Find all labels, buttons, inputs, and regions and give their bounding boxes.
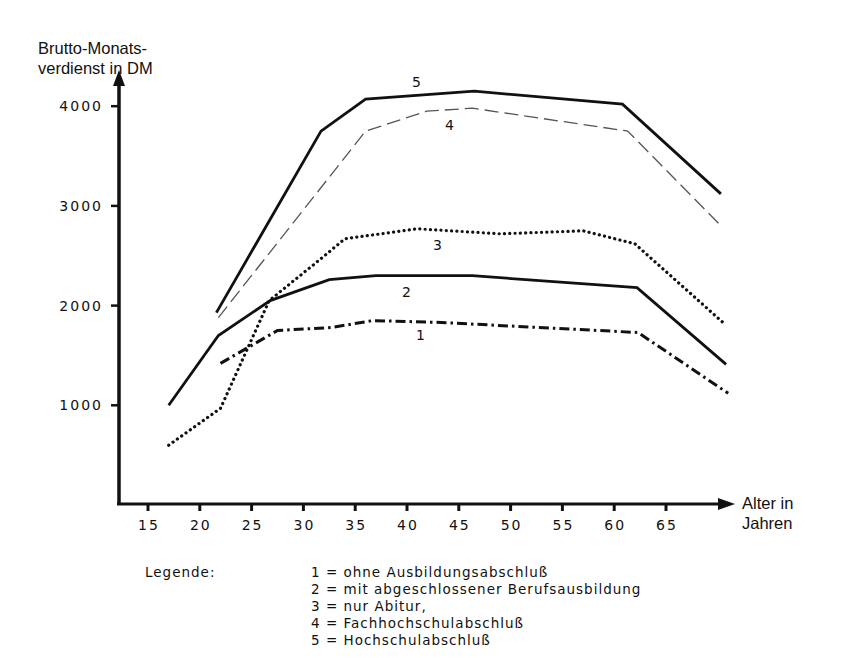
- series-lines: [169, 91, 729, 445]
- y-ticks: 1000200030004000: [59, 98, 119, 413]
- x-tick-label: 15: [138, 517, 160, 533]
- legend-item-5: 5 = Hochschulabschluß: [311, 632, 641, 649]
- y-tick-label: 2000: [59, 298, 103, 314]
- y-tick-label: 3000: [59, 198, 103, 214]
- line-chart: 1000200030004000 1520253035404550556065 …: [0, 0, 841, 658]
- legend-item-1: 1 = ohne Ausbildungsabschluß: [311, 564, 641, 581]
- x-tick-label: 20: [190, 517, 212, 533]
- series-line-1: [221, 321, 729, 394]
- x-axis-arrow-icon: [718, 498, 735, 510]
- legend-item-3: 3 = nur Abitur,: [311, 598, 641, 615]
- x-tick-label: 60: [604, 517, 626, 533]
- legend-item-2: 2 = mit abgeschlossener Berufsausbildung: [311, 581, 641, 598]
- x-tick-label: 25: [242, 517, 264, 533]
- curve-labels: 1 2 3 4 5: [402, 74, 454, 343]
- legend-items: 1 = ohne Ausbildungsabschluß 2 = mit abg…: [311, 564, 641, 649]
- x-tick-label: 40: [397, 517, 419, 533]
- axes: 1000200030004000 1520253035404550556065: [59, 70, 735, 533]
- series-line-5: [216, 91, 721, 312]
- curve-label-4: 4: [445, 117, 454, 133]
- x-tick-label: 65: [656, 517, 678, 533]
- y-tick-label: 1000: [59, 397, 103, 413]
- curve-label-1: 1: [416, 327, 425, 343]
- series-line-4: [218, 108, 721, 317]
- x-ticks: 1520253035404550556065: [138, 504, 678, 533]
- x-tick-label: 50: [501, 517, 523, 533]
- y-axis-arrow-icon: [113, 70, 125, 86]
- x-tick-label: 35: [345, 517, 367, 533]
- x-tick-label: 30: [293, 517, 315, 533]
- legend-item-4: 4 = Fachhochschulabschluß: [311, 615, 641, 632]
- y-tick-label: 4000: [59, 98, 103, 114]
- curve-label-3: 3: [433, 237, 442, 253]
- x-tick-label: 55: [552, 517, 574, 533]
- legend-title: Legende:: [145, 564, 215, 580]
- curve-label-2: 2: [402, 284, 411, 300]
- curve-label-5: 5: [412, 74, 421, 90]
- x-tick-label: 45: [449, 517, 471, 533]
- series-line-3: [169, 229, 723, 445]
